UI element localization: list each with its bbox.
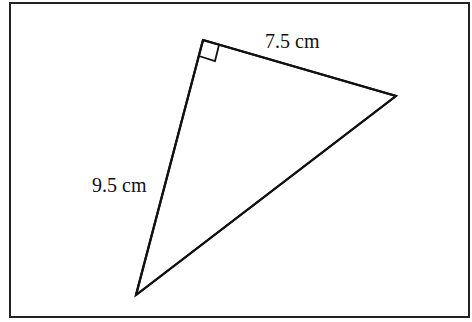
triangle-diagram: 7.5 cm 9.5 cm (0, 0, 472, 322)
label-left-side: 9.5 cm (92, 174, 147, 196)
label-top-side: 7.5 cm (265, 30, 320, 52)
